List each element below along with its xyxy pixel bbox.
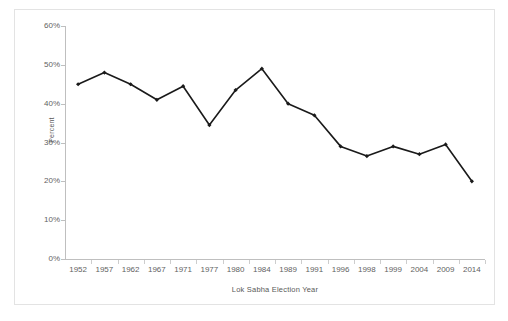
y-tick-mark: [61, 259, 65, 260]
x-tick-mark: [485, 260, 486, 264]
x-tick-mark: [144, 260, 145, 264]
y-tick-mark: [61, 26, 65, 27]
data-point-marker: [365, 154, 369, 158]
y-tick-mark: [61, 65, 65, 66]
y-tick-mark: [61, 220, 65, 221]
y-tick-mark: [61, 181, 65, 182]
x-tick-mark: [170, 260, 171, 264]
x-tick-mark: [406, 260, 407, 264]
x-tick-mark: [354, 260, 355, 264]
x-tick-mark: [433, 260, 434, 264]
x-tick-label: 2014: [452, 266, 492, 274]
x-tick-mark: [301, 260, 302, 264]
data-point-marker: [417, 152, 421, 156]
series-line: [78, 69, 472, 182]
x-tick-mark: [91, 260, 92, 264]
x-tick-mark: [118, 260, 119, 264]
x-tick-mark: [196, 260, 197, 264]
x-tick-mark: [249, 260, 250, 264]
x-tick-mark: [380, 260, 381, 264]
y-tick-mark: [61, 104, 65, 105]
y-tick-mark: [61, 143, 65, 144]
chart-plot-area: Percent 0%10%20%30%40%50%60% 19521957196…: [0, 0, 508, 321]
x-axis-title: Lok Sabha Election Year: [65, 285, 485, 294]
x-tick-mark: [223, 260, 224, 264]
data-point-marker: [391, 144, 395, 148]
x-tick-mark: [328, 260, 329, 264]
x-tick-mark: [459, 260, 460, 264]
x-tick-mark: [275, 260, 276, 264]
